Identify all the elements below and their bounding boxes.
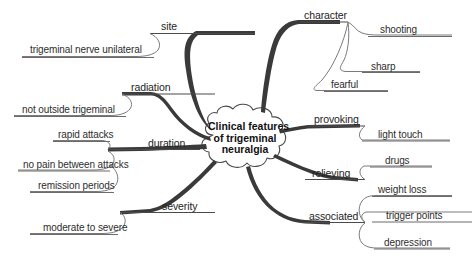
subbranch-rapid-attacks — [53, 141, 110, 150]
branch-label-provoking[interactable]: provoking — [314, 114, 359, 125]
subbranch-label-fearful[interactable]: fearful — [331, 80, 358, 90]
subbranch-label-not-outside-trigeminal[interactable]: not outside trigeminal — [22, 105, 115, 115]
subbranch-label-moderate-to-severe[interactable]: moderate to severe — [43, 223, 127, 233]
subbranch-label-trigger-points[interactable]: trigger points — [386, 211, 442, 221]
branch-character — [261, 20, 340, 113]
subbranch-label-drugs[interactable]: drugs — [385, 156, 410, 166]
subbranch-label-rapid-attacks[interactable]: rapid attacks — [58, 130, 113, 140]
center-node: Clinical features of trigeminal neuralgi… — [208, 121, 282, 156]
branch-label-relieving[interactable]: relieving — [312, 168, 350, 179]
subbranch-label-trigeminal-nerve-unilateral[interactable]: trigeminal nerve unilateral — [30, 45, 142, 55]
branch-radiation — [122, 92, 211, 141]
branch-label-character[interactable]: character — [304, 10, 347, 21]
subbranch-label-remission-periods[interactable]: remission periods — [38, 181, 115, 191]
center-node-line-3: neuralgia — [208, 144, 282, 156]
center-node-line-1: Clinical features — [208, 121, 282, 133]
branch-label-site[interactable]: site — [161, 21, 177, 32]
subbranch-label-depression[interactable]: depression — [384, 238, 432, 248]
subbranch-label-light-touch[interactable]: light touch — [378, 130, 423, 140]
subbranch-label-weight-loss[interactable]: weight loss — [378, 185, 426, 195]
branch-label-duration[interactable]: duration — [148, 138, 185, 149]
branch-label-radiation[interactable]: radiation — [131, 82, 170, 93]
subbranch-drugs — [360, 166, 432, 180]
mind-map-canvas: Clinical features of trigeminal neuralgi… — [0, 0, 473, 266]
subbranch-label-no-pain-between-attacks[interactable]: no pain between attacks — [23, 160, 129, 170]
branch-label-severity[interactable]: severity — [162, 201, 197, 212]
branch-label-associated[interactable]: associated — [309, 211, 358, 222]
subbranch-label-sharp[interactable]: sharp — [371, 62, 396, 72]
subbranch-label-shooting[interactable]: shooting — [380, 25, 417, 35]
